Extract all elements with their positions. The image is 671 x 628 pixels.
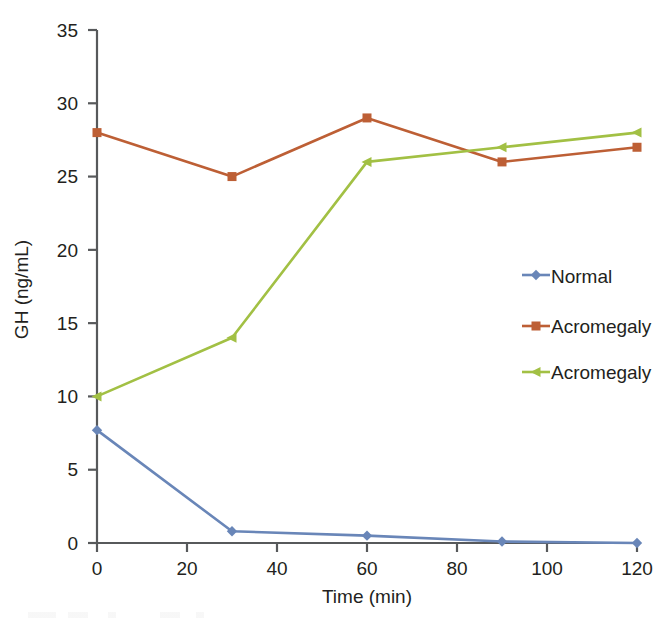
- series-1-point-1: [228, 172, 237, 181]
- y-tick-label-30: 30: [42, 94, 78, 113]
- x-tick-label-20: 20: [167, 559, 207, 578]
- series-2-point-1: [227, 333, 237, 343]
- legend-label-acromegaly-2: Acromegaly: [551, 363, 651, 382]
- legend-label-normal: Normal: [551, 267, 612, 286]
- page-artifact: [28, 612, 228, 618]
- y-axis-title: GH (ng/mL): [12, 225, 31, 355]
- series-line-2: [97, 133, 637, 397]
- y-tick-label-5: 5: [42, 460, 78, 479]
- series-line-1: [97, 118, 637, 177]
- plot-canvas: [0, 0, 671, 628]
- series-0-point-2: [362, 530, 372, 540]
- series-0-point-4: [632, 538, 642, 548]
- legend-label-acromegaly-1: Acromegaly: [551, 317, 651, 336]
- legend-triangle-icon-2: [531, 367, 541, 377]
- series-2-point-4: [632, 128, 642, 138]
- x-tick-label-100: 100: [527, 559, 567, 578]
- series-1-point-2: [363, 113, 372, 122]
- x-tick-label-0: 0: [77, 559, 117, 578]
- legend-square-icon-1: [532, 322, 541, 331]
- line-chart: 35 30 25 20 15 10 5 0 0 20 40 60 80 100 …: [0, 0, 671, 628]
- series-1-point-0: [93, 128, 102, 137]
- y-tick-label-25: 25: [42, 167, 78, 186]
- x-tick-label-60: 60: [347, 559, 387, 578]
- series-0-point-3: [497, 536, 507, 546]
- y-tick-label-15: 15: [42, 314, 78, 333]
- x-axis-title: Time (min): [307, 587, 427, 606]
- series-2-point-3: [497, 142, 507, 152]
- x-tick-label-120: 120: [617, 559, 657, 578]
- series-1-point-4: [633, 143, 642, 152]
- x-tick-label-40: 40: [257, 559, 297, 578]
- legend-diamond-icon-0: [531, 270, 541, 280]
- y-tick-label-20: 20: [42, 241, 78, 260]
- y-tick-label-0: 0: [42, 534, 78, 553]
- y-tick-label-10: 10: [42, 387, 78, 406]
- y-tick-label-35: 35: [42, 21, 78, 40]
- x-tick-label-80: 80: [437, 559, 477, 578]
- series-1-point-3: [498, 157, 507, 166]
- series-line-0: [97, 430, 637, 543]
